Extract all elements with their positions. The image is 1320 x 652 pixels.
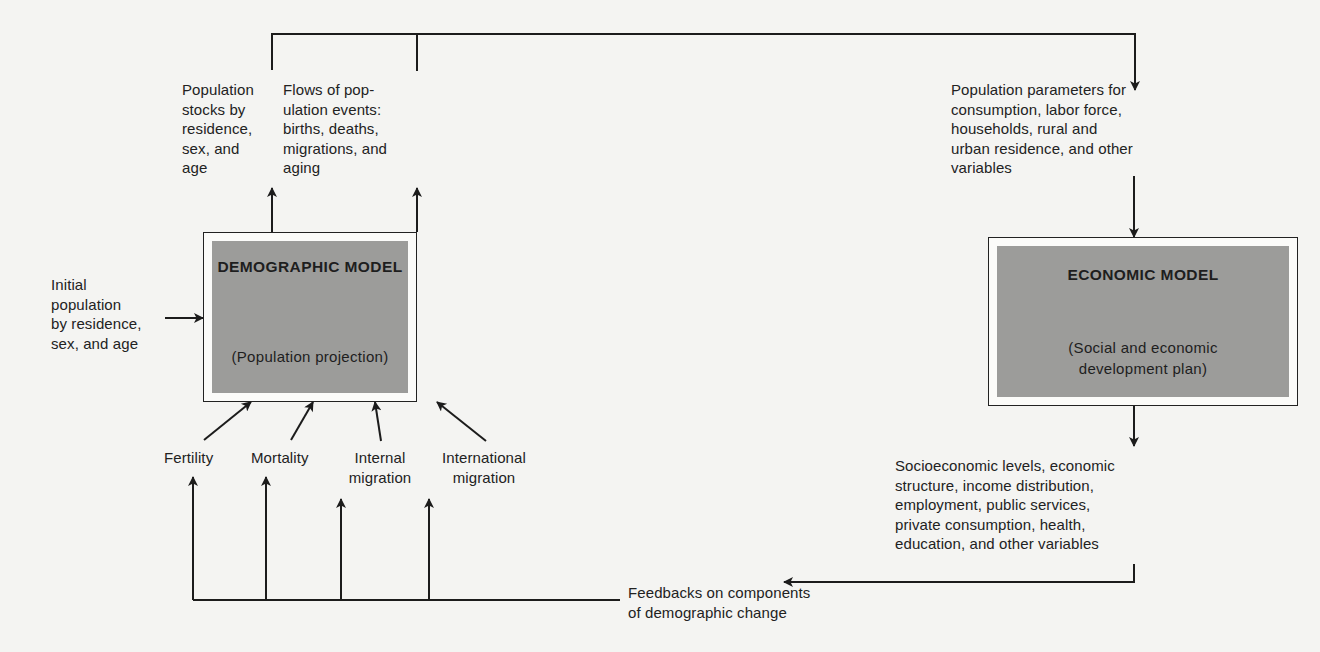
socioeconomic-outputs-label: Socioeconomic levels, economic structure…	[895, 456, 1115, 554]
feedback-return-arrow	[784, 564, 1134, 582]
economic-model-title: ECONOMIC MODEL	[989, 266, 1297, 284]
mortality-input-arrow	[291, 402, 313, 440]
fertility-input-arrow	[204, 402, 251, 440]
population-stocks-label: Population stocks by residence, sex, and…	[182, 80, 254, 178]
mortality-label: Mortality	[251, 448, 309, 468]
population-parameters-label: Population parameters for consumption, l…	[951, 80, 1133, 178]
fertility-label: Fertility	[164, 448, 213, 468]
economic-model-subtitle-line2: development plan)	[989, 359, 1297, 379]
internal-migration-input-arrow	[375, 402, 381, 441]
international-migration-label: International migration	[432, 448, 536, 487]
feedback-label: Feedbacks on components of demographic c…	[628, 583, 810, 622]
economic-model-box: ECONOMIC MODEL (Social and economic deve…	[988, 237, 1298, 406]
demographic-model-title: DEMOGRAPHIC MODEL	[204, 258, 416, 276]
economic-model-subtitle-line1: (Social and economic	[989, 338, 1297, 358]
demographic-model-box: DEMOGRAPHIC MODEL (Population projection…	[203, 232, 417, 402]
initial-population-label: Initial population by residence, sex, an…	[51, 275, 142, 353]
demographic-model-subtitle: (Population projection)	[204, 347, 416, 367]
internal-migration-label: Internal migration	[337, 448, 423, 487]
population-flows-label: Flows of pop- ulation events: births, de…	[283, 80, 387, 178]
international-migration-input-arrow	[437, 402, 486, 441]
